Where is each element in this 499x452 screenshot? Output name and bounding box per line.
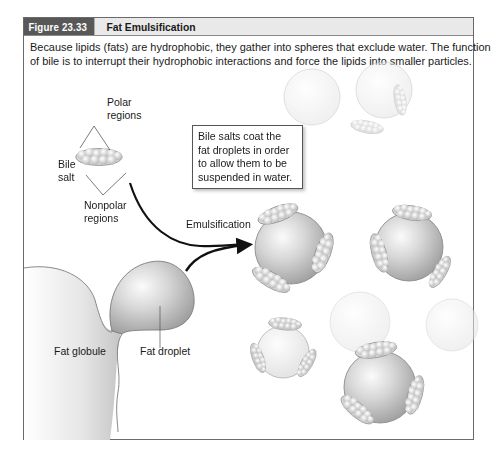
callout-line-1: Bile salts coat the <box>198 130 297 144</box>
callout-line-4: suspended in water. <box>198 171 297 185</box>
label-polar-line-1: Polar <box>107 96 141 109</box>
label-bile-salt: Bile salt <box>58 158 76 183</box>
label-nonpolar-line-2: regions <box>84 212 127 225</box>
label-nonpolar-line-1: Nonpolar <box>84 199 127 212</box>
label-bile-line-1: Bile <box>58 158 76 171</box>
label-fat-droplet: Fat droplet <box>140 345 190 358</box>
callout-line-2: fat droplets in order <box>198 144 297 158</box>
label-bile-line-2: salt <box>58 171 76 184</box>
label-emulsification: Emulsification <box>186 218 251 231</box>
label-polar-regions: Polar regions <box>107 96 141 121</box>
callout-box: Bile salts coat the fat droplets in orde… <box>192 125 303 189</box>
callout-line-3: to allow them to be <box>198 157 297 171</box>
label-nonpolar-regions: Nonpolar regions <box>84 199 127 224</box>
faint-droplets <box>284 62 478 352</box>
label-polar-line-2: regions <box>107 109 141 122</box>
label-fat-globule: Fat globule <box>54 345 106 358</box>
fat-droplet-shape <box>110 261 194 334</box>
emulsification-arrow <box>186 245 246 271</box>
